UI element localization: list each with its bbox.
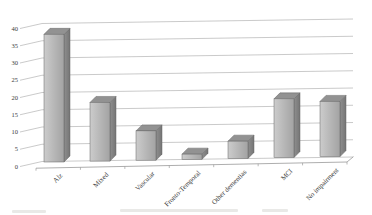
gridline-20 xyxy=(42,88,353,93)
bar-fronto-temporal xyxy=(182,148,208,159)
gridline-5 xyxy=(42,140,353,145)
category-label-fronto-temporal: Fronto-Temporal xyxy=(163,169,202,208)
bar-side-face-mixed xyxy=(110,96,116,161)
y-axis-tick-stub-30 xyxy=(20,58,42,63)
y-axis-tick-stub-35 xyxy=(20,41,42,46)
bar-side-face-no-impairment xyxy=(340,95,346,156)
y-axis-tick-label-35: 35 xyxy=(12,42,19,49)
bar-front-face-mci xyxy=(274,99,294,158)
category-axis-line xyxy=(36,162,347,168)
gridline-30 xyxy=(42,54,353,59)
cropped-caption-artifact xyxy=(262,209,288,212)
y-axis-tick-label-20: 20 xyxy=(12,94,19,101)
y-axis-tick-label-30: 30 xyxy=(12,59,19,66)
y-axis-tick-label-40: 40 xyxy=(12,25,19,32)
bar-mixed xyxy=(90,96,116,161)
category-label-no-impairment: No impairment xyxy=(305,166,341,202)
y-axis-tick-stub-25 xyxy=(20,75,42,80)
bar-mci xyxy=(274,93,300,158)
gridline-15 xyxy=(42,105,353,110)
y-axis-tick-stub-5 xyxy=(20,144,42,149)
bar-front-face-no-impairment xyxy=(320,101,340,156)
y-axis-tick-label-15: 15 xyxy=(12,111,19,118)
category-label-mixed: Mixed xyxy=(92,171,111,190)
bar-alz xyxy=(44,28,70,162)
category-label-other-dementias: Other dementias xyxy=(210,168,248,206)
gridline-40 xyxy=(42,19,353,24)
category-label-alz: Alz xyxy=(52,172,65,185)
bar-front-face-vascular xyxy=(136,131,156,160)
bar-front-face-fronto-temporal xyxy=(182,154,202,159)
category-label-mci: MCI xyxy=(279,167,294,182)
gridline-35 xyxy=(42,36,353,41)
y-axis-tick-stub-15 xyxy=(20,110,42,115)
y-axis-tick-label-0: 0 xyxy=(15,163,18,170)
category-label-vascular: Vascular xyxy=(134,169,157,192)
y-axis-tick-stub-40 xyxy=(20,24,42,29)
gridline-10 xyxy=(42,123,353,128)
y-axis-tick-label-25: 25 xyxy=(12,76,19,83)
bar-vascular xyxy=(136,125,162,160)
gridline-25 xyxy=(42,71,353,76)
y-axis-tick-label-10: 10 xyxy=(12,128,19,135)
cropped-caption-artifact xyxy=(120,209,238,212)
bar-no-impairment xyxy=(320,95,346,156)
y-axis-tick-stub-10 xyxy=(20,127,42,132)
bar-side-face-alz xyxy=(64,28,70,162)
bar-front-face-other-dementias xyxy=(228,141,248,158)
bar-front-face-mixed xyxy=(90,102,110,161)
y-axis-tick-label-5: 5 xyxy=(15,145,18,152)
bar-side-face-mci xyxy=(294,93,300,158)
y-axis-tick-stub-20 xyxy=(20,93,42,98)
bar-front-face-alz xyxy=(44,34,64,162)
bar-chart-3d: 0510152025303540AlzMixedVascularFronto-T… xyxy=(0,0,372,215)
bar-other-dementias xyxy=(228,135,254,158)
y-axis-tick-stub-0 xyxy=(20,162,42,167)
cropped-caption-artifact xyxy=(12,210,46,213)
chart-page: 0510152025303540AlzMixedVascularFronto-T… xyxy=(0,0,372,215)
